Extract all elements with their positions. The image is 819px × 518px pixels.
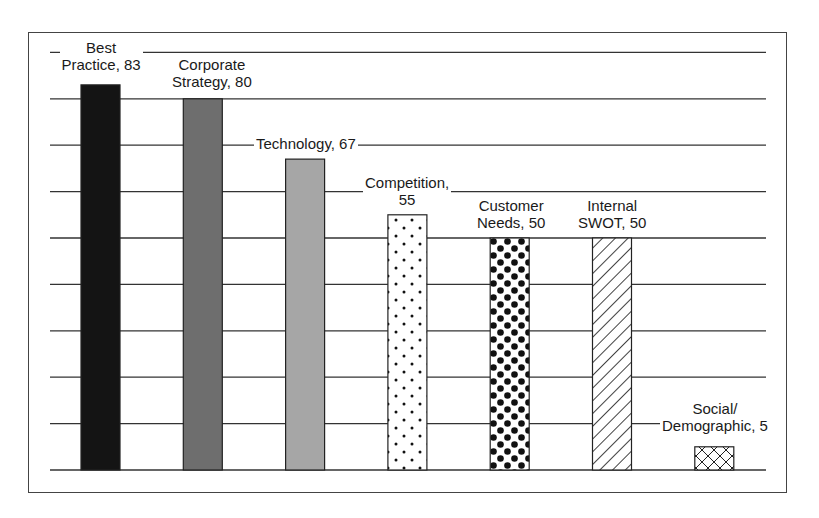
bar-label: Competition,55 [363,174,451,208]
bar-label: BestPractice, 83 [60,39,143,73]
bar-social-demographic [695,447,734,470]
bar-customer-needs [490,238,529,470]
bar-chart [0,0,819,518]
bars [81,85,734,470]
bar-label: Social/Demographic, 5 [660,400,770,434]
bar-corporate-strategy [183,99,222,470]
bar-competition [388,215,427,470]
bar-internal-swot [593,238,632,470]
bar-best-practice [81,85,120,470]
bar-label: Technology, 67 [254,135,358,152]
bar-technology [286,159,325,470]
bar-label: InternalSWOT, 50 [576,197,648,231]
bar-label: CustomerNeeds, 50 [475,197,547,231]
bar-label: CorporateStrategy, 80 [170,56,254,90]
